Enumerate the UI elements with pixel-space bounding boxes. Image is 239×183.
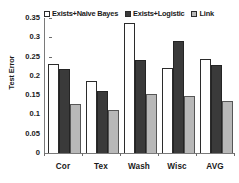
y-axis-tick-label: 0.35 — [8, 14, 40, 22]
legend-swatch-icon-series-1 — [125, 11, 131, 17]
bar-groups — [45, 18, 235, 153]
x-axis-tick-labels: CorTexWashWiscAVG — [44, 153, 234, 183]
x-axis-tick-label: AVG — [196, 162, 234, 171]
x-axis-group: Tex — [82, 153, 120, 183]
bar-group — [121, 18, 159, 153]
x-axis-group: Wisc — [158, 153, 196, 183]
y-axis-tick-labels: 0.350.30.250.20.150.10.050 — [8, 0, 40, 183]
x-axis-group: Cor — [44, 153, 82, 183]
bar-wisc-series-2 — [184, 96, 195, 153]
legend-entry-series-0: Exists+Naive Bayes — [44, 10, 118, 18]
bar-group — [83, 18, 121, 153]
x-axis-tick-mark — [196, 153, 197, 156]
y-axis-tick-label: 0.1 — [8, 110, 40, 118]
bar-cor-series-2 — [70, 104, 81, 153]
y-axis-tick-label: 0 — [8, 149, 40, 157]
x-axis-tick-label: Cor — [44, 162, 82, 171]
x-axis-tick-mark — [120, 153, 121, 156]
bar-wash-series-0 — [124, 23, 135, 153]
x-axis-tick-mark — [82, 153, 83, 156]
legend-swatch-icon-series-2 — [191, 11, 197, 17]
x-axis-tick-label: Tex — [82, 162, 120, 171]
bar-wisc-series-0 — [162, 68, 173, 153]
y-axis-tick-label: 0.25 — [8, 53, 40, 61]
x-axis-tick-mark — [234, 153, 235, 156]
y-axis-tick-label: 0.3 — [8, 33, 40, 41]
bar-group — [45, 18, 83, 153]
legend-label-series-2: Link — [199, 10, 213, 18]
bar-avg-series-1 — [211, 65, 222, 153]
legend-label-series-1: Exists+Logistic — [133, 10, 184, 18]
bar-cor-series-1 — [59, 69, 70, 153]
bar-wisc-series-1 — [173, 41, 184, 153]
x-axis-group: Wash — [120, 153, 158, 183]
x-axis-tick-label: Wisc — [158, 162, 196, 171]
x-axis-tick-mark — [44, 153, 45, 156]
bar-group — [197, 18, 235, 153]
y-axis-tick-label: 0.15 — [8, 91, 40, 99]
x-axis-group: AVG — [196, 153, 234, 183]
x-axis-tick-mark — [158, 153, 159, 156]
legend-entry-series-2: Link — [191, 10, 213, 18]
bar-tex-series-2 — [108, 110, 119, 153]
y-axis-tick-label: 0.05 — [8, 130, 40, 138]
legend-entry-series-1: Exists+Logistic — [125, 10, 184, 18]
x-axis-tick-label: Wash — [120, 162, 158, 171]
bar-cor-series-0 — [48, 64, 59, 153]
bar-tex-series-0 — [86, 81, 97, 154]
bar-chart: Exists+Naive Bayes Exists+Logistic Link … — [0, 0, 239, 183]
plot-area — [44, 18, 235, 154]
y-axis-tick-label: 0.2 — [8, 72, 40, 80]
bar-group — [159, 18, 197, 153]
bar-wash-series-1 — [135, 60, 146, 153]
legend-swatch-icon-series-0 — [44, 11, 50, 17]
bar-tex-series-1 — [97, 91, 108, 153]
bar-avg-series-0 — [200, 59, 211, 154]
bar-avg-series-2 — [222, 101, 233, 153]
legend-label-series-0: Exists+Naive Bayes — [52, 10, 118, 18]
bar-wash-series-2 — [146, 94, 157, 153]
